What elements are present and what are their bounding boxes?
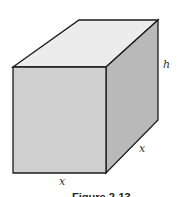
height-label: h — [163, 58, 170, 71]
width-label: x — [59, 175, 66, 188]
front-face — [13, 67, 106, 173]
depth-label: x — [139, 142, 146, 155]
figure-caption: Figure 2-13 — [72, 191, 131, 197]
box-diagram: h x x Figure 2-13 — [0, 0, 182, 197]
